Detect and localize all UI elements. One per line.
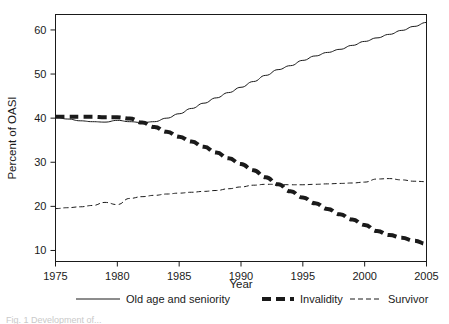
x-axis-title: Year — [229, 278, 252, 290]
x-tick-label: 1995 — [291, 270, 315, 282]
x-tick-label: 1975 — [43, 270, 67, 282]
y-tick-label: 50 — [34, 68, 46, 80]
x-tick-label: 1985 — [167, 270, 191, 282]
y-tick-label: 40 — [34, 112, 46, 124]
y-tick-label: 30 — [34, 156, 46, 168]
x-tick-label: 1980 — [105, 270, 129, 282]
figure-container: 102030405060 197519801985199019952000200… — [0, 0, 449, 324]
y-tick-label: 20 — [34, 200, 46, 212]
y-tick-label: 60 — [34, 24, 46, 36]
figure-caption-fragment: Fig. 1 Development of... — [6, 316, 186, 324]
x-tick-label: 2000 — [352, 270, 376, 282]
x-tick-label: 2005 — [414, 270, 438, 282]
line-chart: 102030405060 197519801985199019952000200… — [0, 0, 449, 324]
legend-label: Invalidity — [300, 293, 343, 305]
y-tick-label: 10 — [34, 244, 46, 256]
legend-label: Survivor — [388, 293, 429, 305]
legend-label: Old age and seniority — [126, 293, 230, 305]
y-axis-title: Percent of OASI — [6, 96, 18, 179]
